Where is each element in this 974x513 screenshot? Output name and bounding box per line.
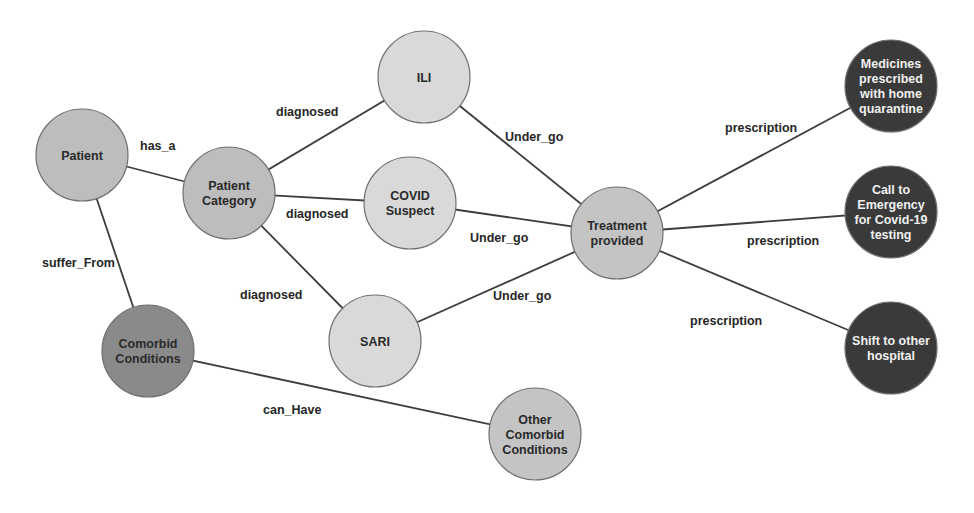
edge-label: diagnosed <box>276 105 339 119</box>
node-label: Conditions <box>502 443 567 457</box>
node-label: Call to <box>872 183 911 197</box>
node-treatment-provided[interactable]: Treatmentprovided <box>571 187 663 279</box>
node-medicines-home-quarantine[interactable]: Medicinesprescribedwith homequarantine <box>845 40 937 132</box>
node-label: Conditions <box>115 352 180 366</box>
node-circle <box>183 147 275 239</box>
node-label: Comorbid <box>118 337 177 351</box>
node-label: SARI <box>360 335 390 349</box>
edge-label: diagnosed <box>286 207 349 221</box>
node-label: Comorbid <box>505 428 564 442</box>
node-label: for Covid-19 <box>855 213 928 227</box>
node-circle <box>845 166 937 258</box>
node-label: Patient <box>208 179 251 193</box>
edge-label: Under_go <box>493 289 552 303</box>
node-label: Medicines <box>861 57 921 71</box>
node-label: Patient <box>61 149 104 163</box>
node-label: Other <box>518 413 551 427</box>
edge-label: has_a <box>140 139 176 153</box>
node-label: ILI <box>417 71 432 85</box>
node-comorbid-conditions[interactable]: ComorbidConditions <box>102 305 194 397</box>
edge-label: prescription <box>690 314 762 328</box>
node-circle <box>845 40 937 132</box>
node-label: hospital <box>867 349 915 363</box>
edge-label: Under_go <box>505 130 564 144</box>
node-patient-category[interactable]: PatientCategory <box>183 147 275 239</box>
node-circle <box>845 302 937 394</box>
edge-label: diagnosed <box>240 288 303 302</box>
edge-label: suffer_From <box>42 256 115 270</box>
node-other-comorbid-conditions[interactable]: OtherComorbidConditions <box>489 388 581 480</box>
background <box>0 0 974 513</box>
edge-label: prescription <box>725 121 797 135</box>
node-label: Shift to other <box>852 334 930 348</box>
node-circle <box>102 305 194 397</box>
edge-label: can_Have <box>263 403 321 417</box>
node-covid-suspect[interactable]: COVIDSuspect <box>364 157 456 249</box>
node-patient[interactable]: Patient <box>36 109 128 201</box>
node-label: Suspect <box>386 204 435 218</box>
edge-label: prescription <box>747 234 819 248</box>
node-label: prescribed <box>859 72 923 86</box>
edge-label: Under_go <box>470 231 529 245</box>
node-label: COVID <box>390 189 430 203</box>
node-circle <box>571 187 663 279</box>
node-label: Treatment <box>587 219 648 233</box>
node-label: quarantine <box>859 102 923 116</box>
node-label: Category <box>202 194 256 208</box>
node-circle <box>364 157 456 249</box>
node-label: with home <box>859 87 922 101</box>
node-label: testing <box>871 228 912 242</box>
knowledge-graph-canvas: has_asuffer_Fromdiagnoseddiagnoseddiagno… <box>0 0 974 513</box>
node-ili[interactable]: ILI <box>378 31 470 123</box>
node-shift-to-other-hospital[interactable]: Shift to otherhospital <box>845 302 937 394</box>
node-label: provided <box>591 234 644 248</box>
node-label: Emergency <box>857 198 924 212</box>
node-call-to-emergency[interactable]: Call toEmergencyfor Covid-19testing <box>845 166 937 258</box>
node-sari[interactable]: SARI <box>329 295 421 387</box>
